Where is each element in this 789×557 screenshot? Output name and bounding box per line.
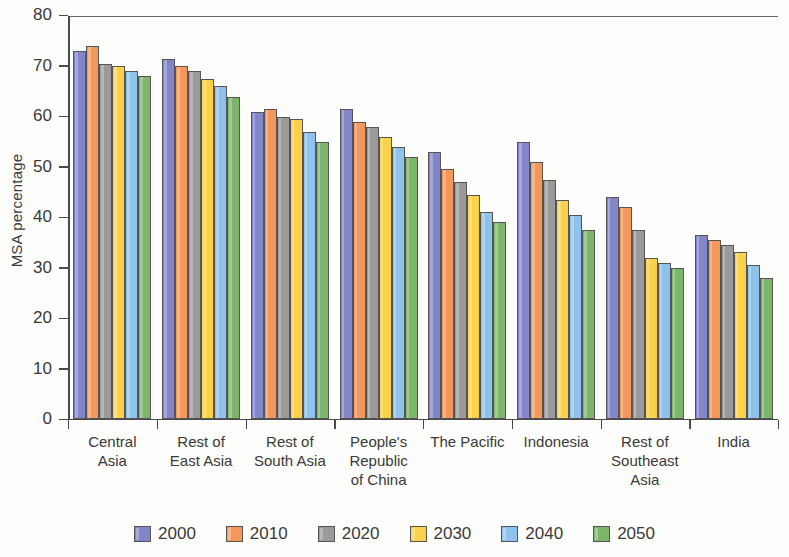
y-axis-tick: 0	[59, 419, 68, 420]
bar-2000	[251, 112, 264, 419]
bar-2050	[493, 222, 506, 418]
x-axis-tick	[778, 420, 779, 429]
bar-group	[601, 16, 690, 420]
category-label-line: Central	[69, 432, 156, 451]
x-axis-tick	[68, 420, 69, 429]
category-label-line: Asia	[602, 470, 689, 489]
y-axis-tick-label: 50	[33, 157, 52, 177]
bar-2000	[428, 152, 441, 419]
legend-swatch-2020	[318, 526, 335, 542]
y-axis-tick: 40	[59, 217, 68, 218]
bar-2040	[747, 265, 760, 418]
bar-2040	[392, 147, 405, 419]
bar-2010	[86, 46, 99, 418]
legend-swatch-2030	[410, 526, 427, 542]
bar-2020	[632, 230, 645, 419]
legend-item-2050[interactable]: 2050	[593, 524, 655, 544]
bar-2040	[480, 212, 493, 418]
legend-item-2040[interactable]: 2040	[501, 524, 563, 544]
bar-2010	[530, 162, 543, 419]
bar-group	[689, 16, 778, 420]
bar-2000	[517, 142, 530, 419]
bar-2050	[227, 97, 240, 419]
legend-swatch-2040	[501, 526, 518, 542]
x-axis-tick	[157, 420, 158, 429]
bar-2020	[188, 71, 201, 418]
category-label-line: The Pacific	[424, 432, 511, 451]
legend-item-2010[interactable]: 2010	[226, 524, 288, 544]
legend-swatch-2010	[226, 526, 243, 542]
bar-2050	[582, 230, 595, 419]
bar-2050	[316, 142, 329, 419]
legend-item-2000[interactable]: 2000	[134, 524, 196, 544]
category-label-line: East Asia	[158, 451, 245, 470]
y-axis-tick-label: 0	[43, 409, 52, 429]
bar-2010	[264, 109, 277, 418]
category-label-line: India	[690, 432, 777, 451]
bar-2030	[556, 200, 569, 419]
y-axis-tick-label: 80	[33, 5, 52, 25]
bar-2010	[175, 66, 188, 418]
x-axis-category-label: CentralAsia	[68, 432, 157, 489]
x-axis-category-label: The Pacific	[423, 432, 512, 489]
bar-2040	[125, 71, 138, 418]
bar-2050	[138, 76, 151, 418]
bar-group	[68, 16, 157, 420]
y-axis-tick-label: 30	[33, 258, 52, 278]
x-axis-category-labels: CentralAsiaRest ofEast AsiaRest ofSouth …	[68, 432, 778, 489]
bar-group	[423, 16, 512, 420]
bar-group	[512, 16, 601, 420]
plot-area: 01020304050607080	[68, 16, 778, 420]
y-axis-tick: 70	[59, 65, 68, 66]
legend-swatch-2000	[134, 526, 151, 542]
category-label-line: Asia	[69, 451, 156, 470]
bar-2020	[721, 245, 734, 419]
category-label-line: Indonesia	[513, 432, 600, 451]
y-axis-tick-label: 10	[33, 359, 52, 379]
bar-2000	[340, 109, 353, 418]
bar-group	[334, 16, 423, 420]
bar-2010	[619, 207, 632, 418]
category-label-line: Rest of	[158, 432, 245, 451]
category-label-line: People's	[335, 432, 422, 451]
bar-group	[246, 16, 335, 420]
legend-item-2020[interactable]: 2020	[318, 524, 380, 544]
y-axis-tick: 20	[59, 318, 68, 319]
bar-groups	[68, 16, 778, 420]
bar-2010	[708, 240, 721, 419]
bar-2010	[441, 169, 454, 418]
y-axis-tick: 50	[59, 166, 68, 167]
category-label-line: of China	[335, 470, 422, 489]
legend-item-2030[interactable]: 2030	[410, 524, 472, 544]
y-axis-tick: 60	[59, 116, 68, 117]
x-axis-category-label: India	[689, 432, 778, 489]
bar-2000	[695, 235, 708, 419]
bar-2000	[606, 197, 619, 418]
chart-legend: 200020102020203020402050	[0, 524, 789, 544]
x-axis-category-label: People'sRepublicof China	[334, 432, 423, 489]
bar-2030	[734, 252, 747, 418]
bar-2000	[162, 59, 175, 419]
category-label-line: Rest of	[247, 432, 334, 451]
y-axis-tick: 80	[59, 15, 68, 16]
bar-2030	[645, 258, 658, 419]
legend-label-2020: 2020	[342, 524, 380, 544]
category-label-line: Republic	[335, 451, 422, 470]
bar-2030	[112, 66, 125, 418]
y-axis-tick-label: 20	[33, 308, 52, 328]
bar-2020	[366, 127, 379, 419]
legend-label-2000: 2000	[158, 524, 196, 544]
x-axis-tick	[512, 420, 513, 429]
category-label-line: Southeast	[602, 451, 689, 470]
x-axis-tick	[423, 420, 424, 429]
category-label-line: South Asia	[247, 451, 334, 470]
bar-2050	[760, 278, 773, 419]
x-axis-category-label: Indonesia	[512, 432, 601, 489]
bar-2020	[277, 117, 290, 419]
bar-group	[157, 16, 246, 420]
x-axis-tick	[334, 420, 335, 429]
bar-2030	[201, 79, 214, 419]
bar-2040	[303, 132, 316, 419]
legend-label-2040: 2040	[525, 524, 563, 544]
bar-2000	[73, 51, 86, 418]
